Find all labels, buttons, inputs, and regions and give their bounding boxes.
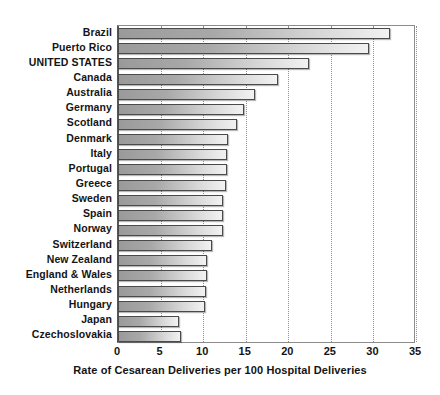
bar-row [118,208,414,222]
bar-row [118,163,414,177]
bar-portugal [118,164,227,175]
bar-netherlands [118,286,206,297]
category-label-denmark: Denmark [0,133,112,144]
bar-row [118,314,414,328]
category-label-brazil: Brazil [0,27,112,38]
category-label-scotland: Scotland [0,117,112,128]
bar-row [118,87,414,101]
x-tick-label-30: 30 [366,345,378,357]
category-label-portugal: Portugal [0,163,112,174]
bar-denmark [118,134,228,145]
category-label-italy: Italy [0,148,112,159]
x-tick-label-0: 0 [114,345,120,357]
bar-row [118,57,414,71]
bar-australia [118,89,255,100]
x-tick-label-10: 10 [196,345,208,357]
bar-czechoslovakia [118,331,181,342]
category-label-new-zealand: New Zealand [0,254,112,265]
bar-greece [118,180,226,191]
bar-row [118,148,414,162]
x-tick-label-15: 15 [239,345,251,357]
bar-row [118,299,414,313]
bar-row [118,102,414,116]
bar-series [118,26,414,342]
x-axis-title: Rate of Cesarean Deliveries per 100 Hosp… [0,364,440,376]
cesarean-rate-bar-chart: BrazilPuerto RicoUNITED STATESCanadaAust… [0,0,440,395]
category-label-norway: Norway [0,223,112,234]
x-axis-tick-labels: 05101520253035 [117,345,415,361]
x-tick-label-20: 20 [281,345,293,357]
category-label-japan: Japan [0,314,112,325]
bar-scotland [118,119,237,130]
category-label-australia: Australia [0,87,112,98]
category-label-czechoslovakia: Czechoslovakia [0,329,112,340]
category-label-netherlands: Netherlands [0,284,112,295]
category-axis-labels: BrazilPuerto RicoUNITED STATESCanadaAust… [0,25,112,343]
bar-sweden [118,195,223,206]
gridline-35 [416,26,417,342]
bar-row [118,42,414,56]
bar-row [118,223,414,237]
bar-row [118,269,414,283]
bar-row [118,284,414,298]
bar-italy [118,149,227,160]
bar-row [118,133,414,147]
bar-row [118,193,414,207]
x-tick-label-35: 35 [409,345,421,357]
bar-united-states [118,58,309,69]
bar-japan [118,316,179,327]
plot-area [117,25,415,343]
bar-brazil [118,28,390,39]
bar-switzerland [118,240,212,251]
category-label-puerto-rico: Puerto Rico [0,42,112,53]
category-label-england-wales: England & Wales [0,269,112,280]
bar-puerto-rico [118,43,369,54]
category-label-greece: Greece [0,178,112,189]
bar-canada [118,74,278,85]
bar-row [118,329,414,343]
category-label-hungary: Hungary [0,299,112,310]
bar-spain [118,210,223,221]
bar-row [118,178,414,192]
category-label-sweden: Sweden [0,193,112,204]
bar-new-zealand [118,255,207,266]
category-label-united-states: UNITED STATES [0,57,112,68]
x-tick-label-5: 5 [157,345,163,357]
category-label-canada: Canada [0,72,112,83]
bar-row [118,72,414,86]
bar-row [118,117,414,131]
category-label-spain: Spain [0,208,112,219]
bar-row [118,254,414,268]
category-label-germany: Germany [0,102,112,113]
x-tick-label-25: 25 [324,345,336,357]
bar-england-wales [118,270,207,281]
bar-row [118,239,414,253]
bar-hungary [118,301,205,312]
bar-germany [118,104,244,115]
category-label-switzerland: Switzerland [0,239,112,250]
bar-norway [118,225,223,236]
bar-row [118,27,414,41]
